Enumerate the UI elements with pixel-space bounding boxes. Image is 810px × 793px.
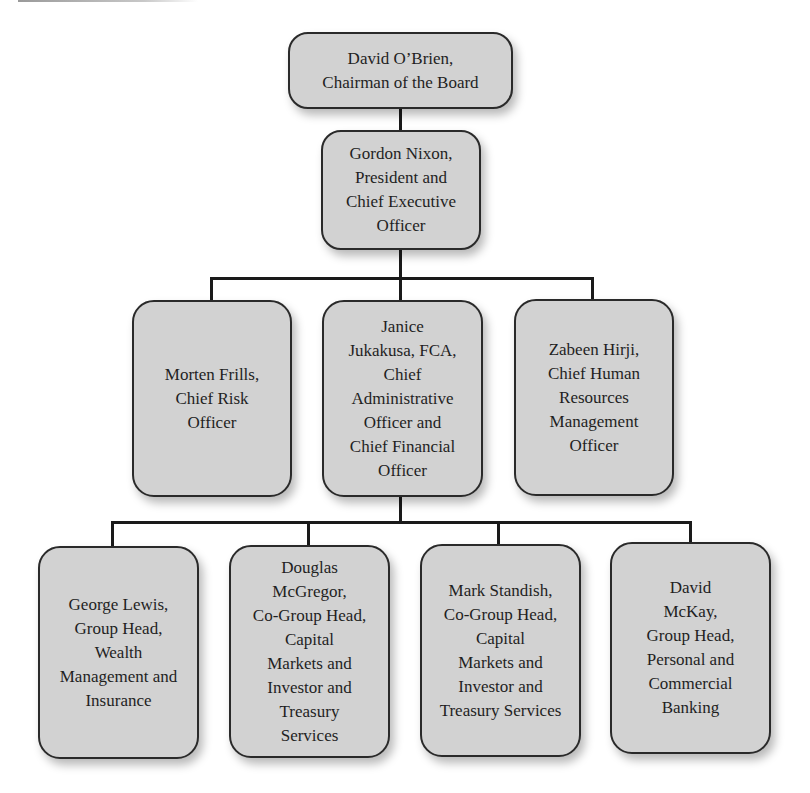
org-box-label: Gordon Nixon, President and Chief Execut… bbox=[346, 142, 456, 238]
org-box-label: Mark Standish, Co-Group Head, Capital Ma… bbox=[440, 579, 562, 723]
connector-to-george-lewis bbox=[111, 521, 114, 547]
org-box-label: David O’Brien, Chairman of the Board bbox=[322, 47, 478, 95]
connector-to-cro bbox=[210, 277, 213, 302]
connector-chairman-to-ceo bbox=[399, 107, 402, 132]
connector-cfo-down bbox=[399, 495, 402, 524]
connector-ceo-down bbox=[399, 248, 402, 279]
connector-level3-horizontal bbox=[111, 521, 692, 524]
org-box-label: George Lewis, Group Head, Wealth Managem… bbox=[60, 593, 178, 713]
org-box-douglas-mcgregor: Douglas McGregor, Co-Group Head, Capital… bbox=[229, 545, 390, 758]
org-box-george-lewis: George Lewis, Group Head, Wealth Managem… bbox=[38, 546, 199, 759]
org-box-ceo: Gordon Nixon, President and Chief Execut… bbox=[321, 130, 481, 250]
org-box-chief-risk-officer: Morten Frills, Chief Risk Officer bbox=[132, 300, 292, 497]
org-box-david-mckay: David McKay, Group Head, Personal and Co… bbox=[610, 542, 771, 754]
org-box-chief-financial-officer: Janice Jukakusa, FCA, Chief Administrati… bbox=[322, 300, 483, 497]
org-box-label: Zabeen Hirji, Chief Human Resources Mana… bbox=[548, 338, 640, 458]
org-box-mark-standish: Mark Standish, Co-Group Head, Capital Ma… bbox=[420, 544, 581, 757]
org-box-label: Janice Jukakusa, FCA, Chief Administrati… bbox=[348, 315, 456, 483]
connector-to-cfo bbox=[399, 277, 402, 302]
connector-to-douglas-mcgregor bbox=[307, 521, 310, 547]
org-box-label: David McKay, Group Head, Personal and Co… bbox=[647, 576, 735, 720]
org-box-label: Douglas McGregor, Co-Group Head, Capital… bbox=[253, 556, 366, 748]
top-rule-divider bbox=[18, 0, 198, 2]
connector-level2-horizontal bbox=[210, 277, 594, 280]
org-box-chief-hr-officer: Zabeen Hirji, Chief Human Resources Mana… bbox=[514, 299, 674, 496]
org-box-label: Morten Frills, Chief Risk Officer bbox=[165, 363, 259, 435]
org-box-chairman: David O’Brien, Chairman of the Board bbox=[288, 32, 513, 109]
